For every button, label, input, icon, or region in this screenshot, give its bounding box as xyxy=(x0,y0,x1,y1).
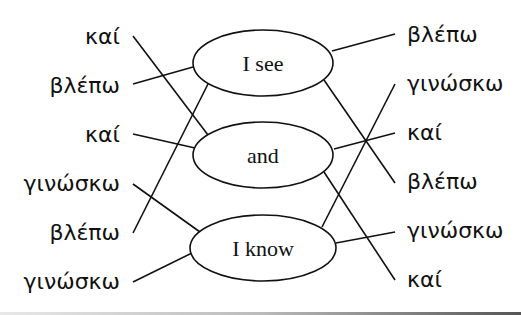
connector-right-1 xyxy=(332,34,395,51)
right-word-2: γινώσκω xyxy=(407,71,504,96)
connector-right-6 xyxy=(324,172,395,280)
right-word-4: βλέπω xyxy=(407,169,478,194)
right-word-column: βλέπω γινώσκω καί βλέπω γινώσκω καί xyxy=(407,22,504,292)
left-word-2: βλέπω xyxy=(49,73,120,98)
node-i-know: I know xyxy=(190,215,336,281)
left-word-3: καί xyxy=(85,122,120,147)
left-word-6: γινώσκω xyxy=(23,269,120,294)
left-word-4: γινώσκω xyxy=(23,171,120,196)
node-and: and xyxy=(193,122,333,188)
node-label-i-see: I see xyxy=(243,51,284,76)
node-label-i-know: I know xyxy=(232,236,294,261)
left-word-5: βλέπω xyxy=(49,220,120,245)
right-word-1: βλέπω xyxy=(407,22,478,47)
connector-right-5 xyxy=(336,232,395,243)
left-word-1: καί xyxy=(85,24,120,49)
node-label-and: and xyxy=(247,143,279,168)
matching-diagram: I see and I know καί βλέπω καί γινώσκω β… xyxy=(0,0,521,315)
node-i-see: I see xyxy=(193,30,333,96)
left-word-column: καί βλέπω καί γινώσκω βλέπω γινώσκω xyxy=(23,24,120,294)
connector-left-3 xyxy=(133,134,195,148)
connector-right-3 xyxy=(334,133,395,149)
right-word-6: καί xyxy=(407,267,442,292)
connector-left-6 xyxy=(133,252,194,282)
connector-right-4 xyxy=(324,80,395,183)
right-word-3: καί xyxy=(407,120,442,145)
connector-left-4 xyxy=(133,184,200,232)
right-word-5: γινώσκω xyxy=(407,218,504,243)
connector-left-2 xyxy=(133,67,193,84)
